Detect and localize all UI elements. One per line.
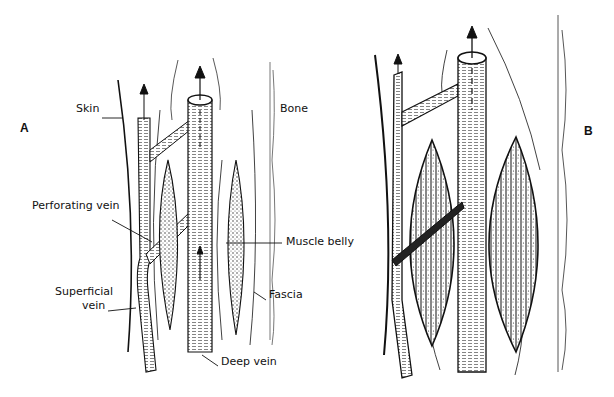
muscle-belly-a-left	[159, 160, 177, 330]
muscle-belly-a-right	[228, 160, 244, 335]
deep-vein-b	[458, 58, 486, 372]
panel-label-b: B	[584, 124, 593, 138]
label-muscle-belly: Muscle belly	[286, 236, 354, 248]
label-skin: Skin	[76, 103, 99, 115]
panel-a-drawing	[118, 58, 275, 372]
skin-line-b	[375, 55, 388, 355]
bone-a	[270, 62, 275, 345]
label-deep-vein: Deep vein	[221, 356, 277, 368]
label-fascia: Fascia	[269, 289, 303, 301]
label-bone: Bone	[280, 103, 308, 115]
panel-b-drawing	[375, 15, 567, 378]
panel-label-a: A	[20, 121, 29, 135]
bone-b	[558, 15, 567, 372]
label-superficial-vein-line2: vein	[82, 300, 105, 312]
label-superficial-vein-line1: Superficial	[55, 286, 113, 298]
label-perforating-vein: Perforating vein	[32, 200, 120, 212]
muscle-belly-b-right	[489, 137, 538, 352]
skin-line-a	[118, 80, 131, 352]
